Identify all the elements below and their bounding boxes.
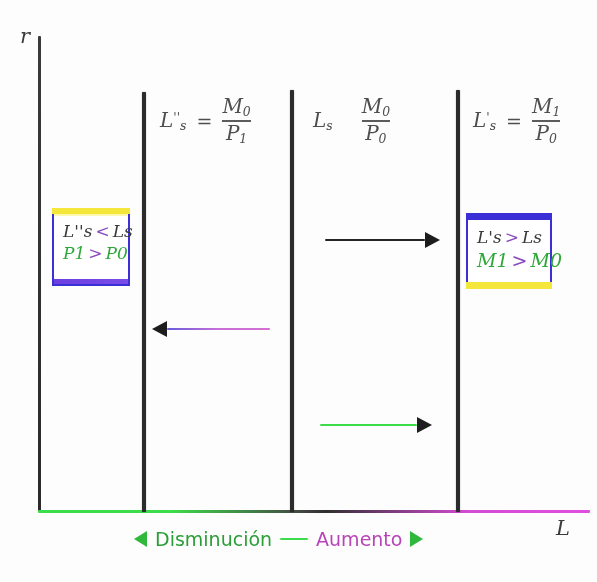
note-line-1: L''s<Ls (63, 220, 119, 242)
formula-lhs-base: L (473, 108, 486, 132)
note-term-right: Ls (113, 221, 133, 241)
note-line-1: L's>Ls (477, 226, 541, 248)
note-line-2: M1>M0 (477, 248, 541, 273)
right-arrow-icon (410, 531, 423, 547)
formula-ls-contracted: L''s = M0 P1 (160, 96, 251, 146)
arrow-shaft (320, 424, 417, 427)
note-term-right: P0 (106, 243, 128, 263)
note-relation: > (85, 243, 105, 263)
arrow-shaft (325, 239, 425, 242)
y-axis-label: r (20, 24, 30, 48)
equals-sign: = (193, 110, 215, 132)
left-arrow-icon (134, 531, 147, 547)
formula-ls-expanded: L's = M1 P0 (473, 96, 560, 146)
note-box-expansion: L's>Ls M1>M0 (466, 218, 552, 284)
note-relation: > (509, 249, 531, 271)
legend-direction: Disminución Aumento (134, 528, 423, 550)
note-relation: < (92, 221, 112, 241)
note-term-left: P1 (63, 243, 85, 263)
y-axis (38, 36, 41, 512)
fraction-numerator: M0 (222, 96, 250, 119)
arrow-head (425, 232, 440, 248)
formula-lhs-base: L (160, 108, 173, 132)
arrow-shaft (167, 328, 270, 331)
formula-ls-initial: Ls M0 P0 (313, 96, 390, 146)
figure-canvas: r L L''s = M0 P1 Ls M0 P0 L's = M1 (0, 0, 597, 582)
note-box-contraction: L''s<Ls P1>P0 (52, 212, 130, 286)
equals-sign: = (503, 110, 525, 132)
legend-separator-icon (280, 538, 308, 541)
arrow-head (152, 321, 167, 337)
fraction: M0 P1 (222, 96, 250, 146)
note-term-right: Ls (522, 227, 542, 247)
note-term-right: M0 (530, 249, 562, 271)
note-relation: > (502, 227, 522, 247)
note-term-left: M1 (477, 249, 509, 271)
arrow-contraction-black (152, 322, 270, 336)
x-axis (38, 510, 590, 513)
arrow-head (417, 417, 432, 433)
fraction-numerator: M0 (362, 96, 390, 119)
fraction-denominator: P1 (226, 123, 247, 146)
arrow-expansion-black (325, 233, 440, 247)
fraction: M0 P0 (362, 96, 390, 146)
fraction-denominator: P0 (365, 123, 386, 146)
supply-line-ls-contracted (142, 92, 146, 512)
formula-lhs-sub: s (326, 119, 332, 134)
note-term-left: L's (477, 227, 502, 247)
supply-line-ls-initial (290, 90, 294, 512)
fraction-denominator: P0 (535, 123, 556, 146)
formula-lhs-sub: s (180, 119, 186, 134)
fraction-numerator: M1 (532, 96, 560, 119)
formula-lhs-sub: s (490, 119, 496, 134)
x-axis-label: L (556, 516, 570, 540)
legend-label-increase: Aumento (316, 528, 402, 550)
note-line-2: P1>P0 (63, 242, 119, 264)
note-term-left: L''s (63, 221, 92, 241)
formula-lhs-base: L (313, 108, 326, 132)
arrow-expansion-green (320, 418, 432, 432)
legend-label-decrease: Disminución (155, 528, 272, 550)
fraction: M1 P0 (532, 96, 560, 146)
supply-line-ls-expanded (456, 90, 460, 512)
